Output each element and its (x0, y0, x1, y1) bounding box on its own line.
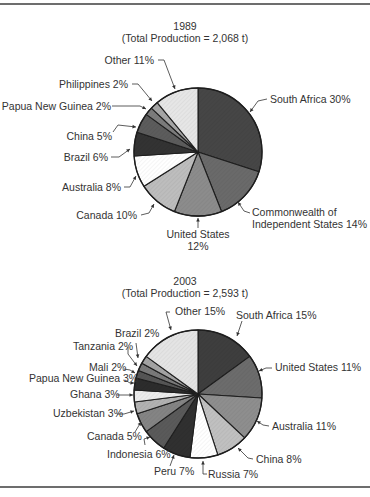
slice-label: South Africa 30% (270, 93, 351, 105)
slice-label: China 5% (66, 130, 112, 142)
bottom-border-rule (0, 486, 370, 488)
slice-label: Uzbekistan 3% (53, 407, 123, 419)
slice-label: China 8% (256, 453, 302, 465)
slice-label: Independent States 14% (252, 218, 367, 230)
leader-arrowhead-icon (201, 461, 205, 465)
slice-label: United States (166, 228, 229, 240)
slice-label: Canada 10% (76, 209, 137, 221)
slice-label: Ghana 3% (70, 388, 120, 400)
leader-arrowhead-icon (236, 332, 239, 336)
slice-label: Papua New Guinea 3% (29, 372, 138, 384)
leader-arrowhead-icon (168, 326, 171, 330)
pie-charts-canvas: South Africa 30%Commonwealth ofIndepende… (0, 0, 370, 497)
slice-label: Tanzania 2% (73, 340, 133, 352)
leader-line (112, 106, 146, 109)
leader-arrowhead-icon (250, 108, 254, 112)
leader-arrowhead-icon (130, 393, 134, 397)
slice-label: Commonwealth of (252, 206, 337, 218)
slice-label: Philippines 2% (59, 78, 128, 90)
leader-arrowhead-icon (133, 362, 137, 366)
leader-arrowhead-icon (126, 149, 130, 153)
slice-label: Brazil 6% (64, 151, 108, 163)
slice-label: Brazil 2% (115, 327, 159, 339)
slice-label: 12% (187, 240, 208, 252)
slice-label: Australia 11% (272, 420, 336, 432)
slice-label: United States 11% (275, 361, 361, 373)
pie-chart-2003: South Africa 15%United States 11%Austral… (29, 305, 361, 480)
slice-label: Mali 2% (89, 361, 126, 373)
slice-label: Russia 7% (208, 468, 258, 480)
slice-label: Australia 8% (62, 181, 121, 193)
slice-label: Other 11% (105, 54, 154, 66)
pie-chart-1989: South Africa 30%Commonwealth ofIndepende… (2, 54, 367, 252)
leader-arrowhead-icon (146, 436, 150, 439)
slice-label: South Africa 15% (236, 309, 317, 321)
leader-arrowhead-icon (196, 218, 200, 222)
leader-line (113, 125, 136, 132)
leader-line (158, 60, 175, 89)
slice-label: Papua New Guinea 2% (2, 100, 111, 112)
leader-arrowhead-icon (257, 421, 261, 424)
leader-arrowhead-icon (238, 202, 241, 206)
slice-label: Canada 5% (87, 430, 142, 442)
leader-line (132, 84, 152, 101)
slice-label: Other 15% (175, 305, 225, 317)
slice-label: Peru 7% (154, 465, 194, 477)
slice-label: Indonesia 6% (107, 448, 171, 460)
